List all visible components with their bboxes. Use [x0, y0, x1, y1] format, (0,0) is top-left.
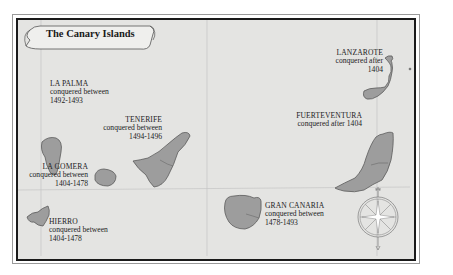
label-hierro: HIERRO conquered between 1404-1478 — [49, 218, 108, 243]
conquest-text: conquered after 1404 — [280, 120, 362, 128]
label-gran-canaria: GRAN CANARIA conquered between 1478-1493 — [265, 202, 324, 227]
island-fuerteventura[interactable] — [335, 132, 393, 192]
label-la-gomera: LA GOMERA conquered between 1404-1478 — [20, 163, 88, 188]
map-title: The Canary Islands — [46, 28, 135, 39]
conquest-years: 1492-1493 — [50, 97, 109, 105]
islet-alegranza — [409, 68, 411, 70]
conquest-years: 1494-1496 — [96, 133, 162, 141]
island-hierro[interactable] — [27, 206, 49, 226]
conquest-years: 1404 — [320, 66, 383, 74]
conquest-years: 1478-1493 — [265, 219, 324, 227]
conquest-years: 1404-1478 — [20, 180, 88, 188]
label-fuerteventura: FUERTEVENTURA conquered after 1404 — [280, 112, 362, 129]
compass-rose-icon — [358, 188, 398, 251]
label-lanzarote: LANZAROTE conquered after 1404 — [320, 49, 383, 74]
island-la-gomera[interactable] — [95, 169, 116, 186]
label-la-palma: LA PALMA conquered between 1492-1493 — [50, 80, 109, 105]
label-tenerife: TENERIFE conquered between 1494-1496 — [96, 116, 162, 141]
conquest-years: 1404-1478 — [49, 235, 108, 243]
island-gran-canaria[interactable] — [225, 195, 262, 229]
